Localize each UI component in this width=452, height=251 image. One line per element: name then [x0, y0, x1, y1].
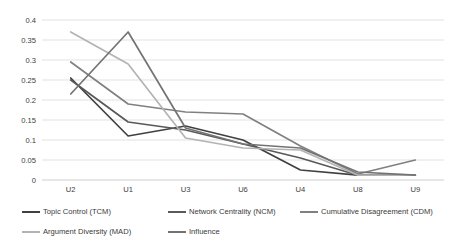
- y-tick-label: 0.15: [21, 116, 36, 125]
- legend-item-mad[interactable]: Argument Diversity (MAD): [22, 225, 131, 239]
- legend-label-cdm: Cumulative Disagreement (CDM): [321, 207, 433, 217]
- x-axis-tick-labels: U2U1U3U6U4U8U9: [66, 185, 420, 194]
- series-line-influence: [71, 32, 416, 175]
- legend-row-1: Topic Control (TCM) Network Centrality (…: [0, 205, 452, 225]
- series-lines: [71, 32, 416, 175]
- series-line-ncm: [71, 80, 416, 175]
- legend-row-2: Argument Diversity (MAD) Influence: [0, 225, 452, 245]
- chart-legend: Topic Control (TCM) Network Centrality (…: [0, 203, 452, 251]
- y-tick-label: 0.2: [25, 96, 36, 105]
- y-tick-label: 0.05: [21, 156, 36, 165]
- legend-label-mad: Argument Diversity (MAD): [43, 227, 131, 237]
- x-tick-label: U6: [238, 185, 248, 194]
- legend-item-influence[interactable]: Influence: [168, 225, 220, 239]
- legend-label-tcm: Topic Control (TCM): [43, 207, 111, 217]
- y-tick-label: 0.25: [21, 76, 36, 85]
- legend-swatch-cdm: [300, 211, 318, 213]
- series-line-mad: [71, 32, 416, 175]
- legend-label-ncm: Network Centrality (NCM): [189, 207, 276, 217]
- legend-label-influence: Influence: [189, 227, 220, 237]
- y-tick-label: 0.4: [25, 16, 36, 25]
- x-tick-label: U4: [296, 185, 306, 194]
- legend-item-ncm[interactable]: Network Centrality (NCM): [168, 205, 276, 219]
- legend-swatch-mad: [22, 231, 40, 233]
- y-tick-label: 0: [32, 176, 36, 185]
- y-tick-label: 0.3: [25, 56, 36, 65]
- gridlines: [42, 20, 444, 180]
- plot-area: 00.050.10.150.20.250.30.350.4 U2U1U3U6U4…: [0, 0, 452, 200]
- legend-swatch-tcm: [22, 211, 40, 213]
- y-axis-tick-labels: 00.050.10.150.20.250.30.350.4: [21, 16, 36, 185]
- y-tick-label: 0.35: [21, 36, 36, 45]
- legend-item-tcm[interactable]: Topic Control (TCM): [22, 205, 111, 219]
- legend-swatch-influence: [168, 231, 186, 233]
- x-tick-label: U9: [410, 185, 420, 194]
- x-tick-label: U8: [353, 185, 363, 194]
- x-tick-label: U1: [123, 185, 133, 194]
- x-tick-label: U3: [181, 185, 191, 194]
- plot-svg: 00.050.10.150.20.250.30.350.4 U2U1U3U6U4…: [0, 0, 452, 200]
- legend-swatch-ncm: [168, 211, 186, 213]
- y-tick-label: 0.1: [25, 136, 36, 145]
- legend-item-cdm[interactable]: Cumulative Disagreement (CDM): [300, 205, 433, 219]
- line-chart: 00.050.10.150.20.250.30.350.4 U2U1U3U6U4…: [0, 0, 452, 251]
- series-line-tcm: [71, 78, 416, 175]
- x-tick-label: U2: [66, 185, 76, 194]
